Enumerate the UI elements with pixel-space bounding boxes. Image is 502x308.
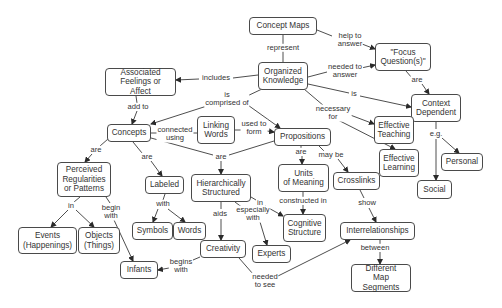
concept-node-experts[interactable]: Experts (252, 245, 291, 263)
link-label-begin-with: begin with (101, 204, 122, 221)
link-label-in-cog: in (256, 199, 264, 207)
concept-node-personal[interactable]: Personal (441, 153, 483, 171)
link-label-are-hier: are (215, 153, 228, 161)
link-label-help-to-answer: help to answer (337, 32, 363, 49)
link-label-constructed-in: constructed in (278, 197, 327, 205)
link-label-used-to-form: used to form (241, 120, 268, 137)
link-label-between: between (360, 244, 391, 252)
concept-node-effective-learning[interactable]: Effective Learning (379, 149, 419, 177)
link-label-needed-to-answer: needed to answer (327, 63, 363, 80)
concept-node-hierarchically-structured[interactable]: Hierarchically Structured (191, 174, 251, 202)
link-label-with: with (155, 200, 171, 208)
concept-node-linking-words[interactable]: Linking Words (197, 116, 235, 144)
link-label-connected-using: connected using (156, 126, 193, 143)
concept-node-perceived-regularities[interactable]: Perceived Regularities or Patterns (57, 162, 111, 197)
concept-node-crosslinks[interactable]: Crosslinks (333, 172, 380, 190)
concept-node-concepts[interactable]: Concepts (107, 124, 151, 142)
link-label-in-events: in (67, 202, 75, 210)
concept-node-cognitive-structure[interactable]: Cognitive Structure (283, 214, 326, 242)
link-label-are-units: are (295, 148, 308, 156)
link-label-begins-with: begins with (169, 258, 193, 275)
link-label-are-labeled: are (141, 153, 154, 161)
concept-node-focus-questions[interactable]: "Focus Question(s)" (375, 43, 431, 71)
concept-node-units-of-meaning[interactable]: Units of Meaning (278, 164, 329, 192)
concept-node-different-map-segments[interactable]: Different Map Segments (351, 264, 411, 292)
concept-node-events[interactable]: Events (Happenings) (18, 227, 77, 254)
concept-node-social[interactable]: Social (417, 180, 452, 199)
concept-node-effective-teaching[interactable]: Effective Teaching (374, 116, 414, 144)
link-label-represent: represent (266, 44, 300, 52)
concept-map-canvas: Concept MapsOrganized Knowledge"Focus Qu… (0, 0, 502, 308)
concept-node-associated-feelings[interactable]: Associated Feelings or Affect (105, 68, 176, 96)
concept-node-organized-knowledge[interactable]: Organized Knowledge (258, 62, 308, 90)
concept-node-labeled[interactable]: Labeled (145, 176, 184, 194)
link-label-show: show (357, 199, 377, 207)
concept-node-interrelationships[interactable]: Interrelationships (340, 222, 415, 240)
link-label-is: is (350, 90, 357, 98)
link-label-needed-to-see: needed to see (251, 273, 278, 290)
link-label-necessary-for: necessary for (315, 105, 352, 122)
link-label-add-to: add to (126, 103, 149, 111)
link-label-is-comprised-of: is comprised of (204, 91, 249, 108)
link-label-includes: includes (201, 74, 231, 82)
concept-node-objects[interactable]: Objects (Things) (78, 227, 120, 254)
link-label-are-concepts-left: are (90, 146, 103, 154)
concept-node-propositions[interactable]: Propositions (274, 128, 331, 146)
concept-node-context-dependent[interactable]: Context Dependent (411, 94, 461, 122)
link-label-aids: aids (212, 210, 228, 218)
link-label-eg: e.g. (429, 130, 444, 138)
concept-node-symbols[interactable]: Symbols (132, 222, 173, 240)
concept-node-concept-maps[interactable]: Concept Maps (249, 17, 317, 35)
concept-node-infants[interactable]: Infants (120, 261, 158, 279)
concept-node-creativity[interactable]: Creativity (200, 240, 246, 258)
link-label-are-fq: are (411, 76, 424, 84)
concept-node-words[interactable]: Words (173, 222, 206, 240)
link-label-may-be: may be (318, 151, 345, 159)
link-label-especially-with: especially with (235, 206, 270, 223)
